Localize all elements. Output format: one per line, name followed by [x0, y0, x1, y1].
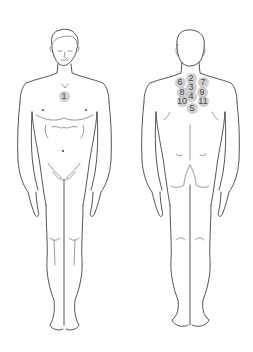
marker-point[interactable]: 7	[198, 77, 209, 88]
marker-point[interactable]: 1	[59, 91, 70, 102]
marker-label: 10	[177, 97, 187, 106]
marker-label: 5	[189, 104, 194, 113]
marker-point[interactable]: 10	[177, 96, 188, 107]
back-body-figure	[0, 0, 253, 352]
marker-label: 11	[198, 97, 207, 106]
marker-point[interactable]: 11	[198, 96, 209, 107]
marker-point[interactable]: 5	[187, 103, 198, 114]
marker-label: 4	[188, 92, 193, 101]
marker-point[interactable]: 6	[175, 77, 186, 88]
marker-label: 7	[200, 78, 205, 87]
marker-label: 6	[177, 78, 182, 87]
marker-label: 1	[61, 92, 66, 101]
